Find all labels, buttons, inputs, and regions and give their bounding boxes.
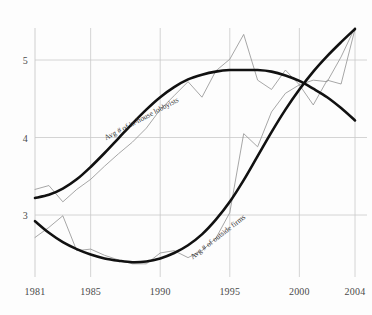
- y-axis-tick-label: 4: [8, 132, 28, 143]
- raw-series-layer: [35, 27, 355, 263]
- y-axis-tick-label: 5: [8, 55, 28, 66]
- x-axis-tick-label: 2004: [345, 286, 366, 297]
- x-axis-tick-label: 1981: [25, 286, 46, 297]
- data-line-0: [35, 29, 355, 202]
- x-axis-tick-label: 2000: [289, 286, 310, 297]
- data-line-2: [35, 27, 355, 263]
- x-axis-tick-label: 1990: [150, 286, 171, 297]
- x-axis-tick-label: 1985: [80, 286, 101, 297]
- y-axis-tick-label: 3: [8, 210, 28, 221]
- x-axis-tick-label: 1995: [219, 286, 240, 297]
- chart-plot-area: [0, 0, 372, 315]
- trend-series-layer: [35, 29, 355, 262]
- chart-container: 198119851990199520002004 345 Avg # of in…: [0, 0, 372, 315]
- trend-line-3: [35, 29, 355, 262]
